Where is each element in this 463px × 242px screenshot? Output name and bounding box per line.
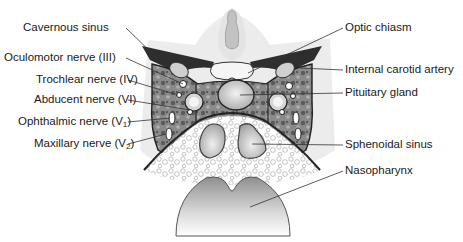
label-internal-carotid-artery: Internal carotid artery: [345, 63, 454, 76]
third-ventricle: [225, 10, 238, 49]
label-text: Ophthalmic nerve (V: [18, 115, 123, 127]
label-sphenoidal-sinus: Sphenoidal sinus: [345, 138, 433, 151]
label-optic-chiasm: Optic chiasm: [345, 21, 411, 34]
label-text: Maxillary nerve (V: [34, 137, 126, 149]
label-pituitary-gland: Pituitary gland: [345, 86, 418, 99]
label-close: ): [127, 115, 131, 127]
label-nasopharynx: Nasopharynx: [345, 164, 413, 177]
label-trochlear-nerve: Trochlear nerve (IV): [36, 73, 138, 86]
label-close: ): [130, 137, 134, 149]
nasopharynx-shape: [176, 177, 290, 236]
label-maxillary-nerve: Maxillary nerve (V2): [34, 137, 134, 153]
label-cavernous-sinus: Cavernous sinus: [23, 21, 109, 34]
label-abducent-nerve: Abducent nerve (VI): [34, 93, 136, 106]
label-ophthalmic-nerve: Ophthalmic nerve (V1): [18, 115, 131, 131]
anatomy-diagram: Cavernous sinus Oculomotor nerve (III) T…: [0, 0, 463, 242]
label-oculomotor-nerve: Oculomotor nerve (III): [4, 51, 116, 64]
